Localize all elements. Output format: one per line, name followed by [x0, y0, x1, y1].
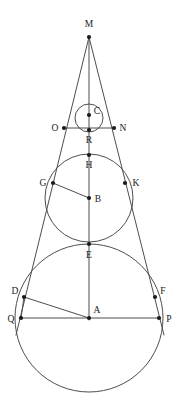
label-D: D	[12, 286, 19, 296]
label-H: H	[86, 160, 93, 170]
label-A: A	[94, 305, 101, 315]
point-H	[87, 153, 91, 157]
segment-Q-to-D	[21, 297, 24, 318]
point-Q	[19, 316, 23, 320]
label-G: G	[40, 178, 47, 188]
right-tangent-line-M-to-P	[89, 37, 164, 335]
point-K	[123, 181, 127, 185]
radius-D-to-A	[24, 297, 89, 318]
label-K: K	[133, 178, 140, 188]
label-C: C	[94, 106, 100, 116]
labels-group: MCONRHGKBEDFQAP	[8, 19, 172, 324]
point-O	[62, 126, 66, 130]
label-E: E	[86, 250, 92, 260]
geometry-canvas: MCONRHGKBEDFQAP	[0, 0, 179, 403]
point-F	[153, 295, 157, 299]
point-C	[87, 113, 91, 117]
left-tangent-line-M-to-Q	[16, 37, 89, 335]
label-R: R	[86, 135, 93, 145]
point-P	[157, 316, 161, 320]
label-Q: Q	[8, 314, 15, 324]
label-B: B	[95, 194, 101, 204]
point-D	[22, 295, 26, 299]
point-A	[87, 316, 91, 320]
point-B	[87, 196, 91, 200]
point-R	[87, 128, 91, 132]
point-G	[51, 181, 55, 185]
label-P: P	[166, 314, 171, 324]
point-E	[87, 242, 91, 246]
point-N	[112, 126, 116, 130]
label-M: M	[85, 19, 94, 29]
geometry-figure: MCONRHGKBEDFQAP	[0, 0, 179, 403]
label-F: F	[160, 286, 165, 296]
radius-G-to-B	[53, 183, 89, 198]
segments-group	[16, 37, 164, 335]
label-N: N	[120, 123, 127, 133]
point-M	[87, 35, 91, 39]
label-O: O	[52, 123, 59, 133]
